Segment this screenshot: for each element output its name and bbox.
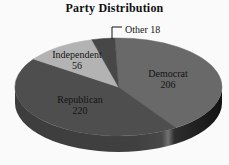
slice-value-republican: 220 [73, 105, 88, 116]
slice-label-independent: Independent [52, 49, 102, 60]
slice-label-republican: Republican [57, 94, 103, 105]
slice-value-independent: 56 [72, 60, 82, 71]
slice-value-democrat: 206 [161, 79, 176, 90]
slice-label-democrat: Democrat [148, 68, 188, 79]
pie-chart-figure: Party Distribution Democrat206Republican… [0, 0, 229, 165]
leader-line-other [112, 27, 122, 39]
pie-chart-canvas: Democrat206Republican220Independent56Oth… [0, 0, 229, 165]
slice-label-other: Other 18 [125, 24, 160, 35]
